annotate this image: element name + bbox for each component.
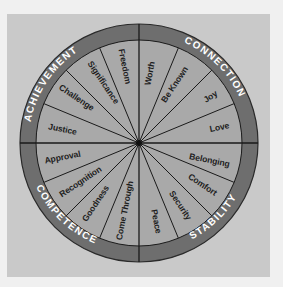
hub-dot bbox=[136, 140, 142, 146]
values-wheel: ACHIEVEMENT CONNECTION STABILITY COMPETE… bbox=[0, 0, 283, 287]
